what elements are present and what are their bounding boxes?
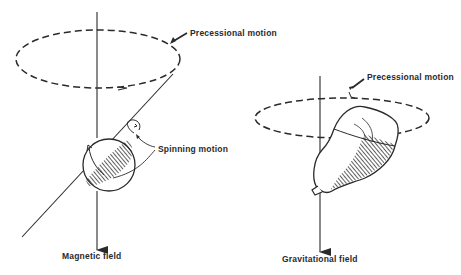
orbit-tick-icon [349, 92, 355, 98]
orbit-direction-arrow-icon [118, 87, 127, 90]
precessional-motion-label-right: Precessional motion [367, 73, 454, 82]
gravitational-field-label: Gravitational field [282, 255, 358, 264]
spin-leader-upper [137, 136, 155, 147]
precessional-motion-label-left: Precessional motion [190, 29, 277, 38]
left-panel-magnetic [16, 12, 187, 250]
precession-orbit-left [16, 30, 180, 88]
precession-diagram [0, 0, 461, 275]
spin-loop-arrow-icon [134, 124, 137, 127]
precession-pointer-right [352, 79, 364, 88]
spinning-motion-label: Spinning motion [158, 145, 228, 154]
magnetic-field-label: Magnetic field [62, 252, 121, 261]
precession-pointer-head-icon [170, 37, 176, 44]
right-panel-gravitational [255, 76, 429, 252]
